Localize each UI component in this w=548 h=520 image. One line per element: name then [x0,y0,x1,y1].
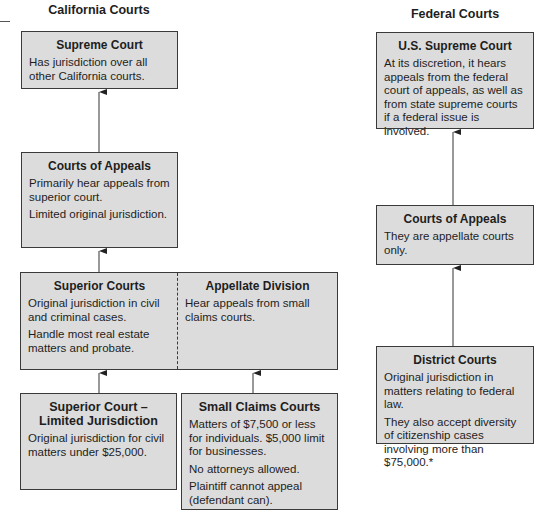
ca-supreme-court-box: Supreme Court Has jurisdiction over all … [21,31,178,89]
ca-supreme-court-desc: Has jurisdiction over all other Californ… [29,56,170,83]
superior-courts-section: Superior Courts Original jurisdiction in… [21,273,178,365]
ca-supreme-court-heading: Supreme Court [29,38,170,52]
federal-courts-title: Federal Courts [376,7,534,21]
appellate-division-heading: Appellate Division [185,279,330,293]
california-courts-title: California Courts [20,3,178,17]
federal-courts-of-appeals-box: Courts of Appeals They are appellate cou… [376,205,534,265]
us-supreme-court-desc: At its discretion, it hears appeals from… [384,57,526,138]
district-courts-heading: District Courts [384,353,526,367]
ca-appeals-desc-1: Primarily hear appeals from superior cou… [29,177,170,204]
appellate-division-desc: Hear appeals from small claims courts. [185,297,330,324]
ca-limited-jurisdiction-box: Superior Court – Limited Jurisdiction Or… [20,393,177,490]
limited-jurisdiction-heading: Superior Court – Limited Jurisdiction [28,400,169,428]
ca-appeals-heading: Courts of Appeals [29,159,170,173]
us-supreme-court-heading: U.S. Supreme Court [384,39,526,53]
superior-courts-desc-1: Original jurisdiction in civil and crimi… [28,297,171,324]
ca-courts-of-appeals-box: Courts of Appeals Primarily hear appeals… [21,152,178,248]
superior-courts-heading: Superior Courts [28,279,171,293]
ca-appeals-desc-2: Limited original jurisdiction. [29,208,170,222]
small-claims-desc-1: Matters of $7,500 or less for individual… [189,418,330,459]
small-claims-desc-2: No attorneys allowed. [189,463,330,477]
district-courts-desc-1: Original jurisdiction in matters relatin… [384,371,526,412]
superior-courts-desc-2: Handle most real estate matters and prob… [28,328,171,355]
federal-appeals-heading: Courts of Appeals [384,212,526,226]
ca-small-claims-box: Small Claims Courts Matters of $7,500 or… [181,393,338,510]
appellate-division-section: Appellate Division Hear appeals from sma… [178,273,337,334]
district-courts-box: District Courts Original jurisdiction in… [376,346,534,444]
federal-appeals-desc: They are appellate courts only. [384,230,526,257]
district-courts-desc-2: They also accept diversity of citizenshi… [384,416,526,470]
small-claims-desc-3: Plaintiff cannot appeal (defendant can). [189,480,330,507]
us-supreme-court-box: U.S. Supreme Court At its discretion, it… [376,32,534,129]
ca-superior-courts-box: Superior Courts Original jurisdiction in… [20,272,338,370]
small-claims-heading: Small Claims Courts [189,400,330,414]
limited-jurisdiction-desc: Original jurisdiction for civil matters … [28,432,169,459]
